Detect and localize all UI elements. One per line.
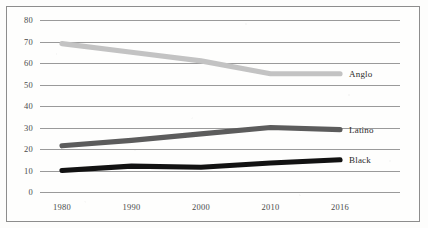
y-axis-tick-label: 50 [24,80,33,90]
series-line [62,128,340,146]
x-axis-tick-label: 2010 [262,202,280,212]
y-axis-tick-label: 10 [24,166,33,176]
y-axis-tick-label: 40 [24,101,33,111]
plot-area: 01020304050607080 19801990200020102016 A… [40,20,400,192]
series-label-latino: Latino [349,125,374,135]
y-axis-tick-label: 60 [24,58,33,68]
y-axis-tick-label: 80 [24,15,33,25]
x-axis-tick-label: 1990 [123,202,141,212]
y-axis-tick-label: 0 [29,187,33,197]
y-axis-tick-label: 30 [24,123,33,133]
series-lines [40,20,400,192]
x-axis-tick-label: 1980 [53,202,71,212]
y-axis-tick-label: 20 [24,144,33,154]
x-axis-tick-label: 2000 [192,202,210,212]
series-line [62,160,340,171]
chart-figure: 01020304050607080 19801990200020102016 A… [0,0,428,228]
series-label-black: Black [349,155,371,165]
y-axis-tick-label: 70 [24,37,33,47]
series-line [62,44,340,74]
gridline [40,192,400,193]
x-axis-tick-label: 2016 [331,202,349,212]
series-label-anglo: Anglo [349,69,373,79]
